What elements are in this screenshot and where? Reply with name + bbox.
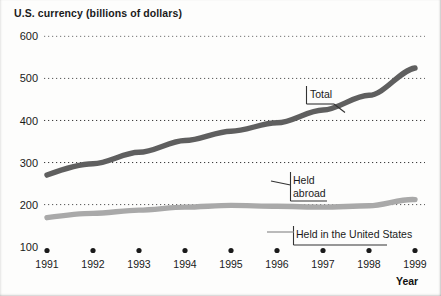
x-tick-1993: 1993 bbox=[119, 258, 159, 270]
x-tick-1994: 1994 bbox=[165, 258, 205, 270]
annotation-us-line-1: Held in the United States bbox=[296, 228, 412, 241]
gridline-400 bbox=[42, 120, 425, 121]
x-tick-1991: 1991 bbox=[27, 258, 67, 270]
series-line-held-in-us bbox=[47, 199, 415, 217]
series-line-total bbox=[47, 68, 415, 175]
x-dot-1992 bbox=[90, 248, 95, 253]
x-tick-1995: 1995 bbox=[211, 258, 251, 270]
x-dot-1994 bbox=[182, 248, 187, 253]
x-axis-dot-markers bbox=[44, 248, 417, 253]
annotation-label-total: Total bbox=[310, 88, 332, 101]
x-dot-1999 bbox=[412, 248, 417, 253]
annotation-label-held-in-us: Held in the United States bbox=[296, 228, 412, 241]
x-dot-1998 bbox=[366, 248, 371, 253]
chart-plot-area bbox=[0, 0, 441, 296]
x-dot-1995 bbox=[228, 248, 233, 253]
x-dot-1997 bbox=[320, 248, 325, 253]
annotation-abroad-line-1: Held bbox=[293, 174, 326, 187]
x-dot-1996 bbox=[274, 248, 279, 253]
x-tick-1998: 1998 bbox=[349, 258, 389, 270]
annotation-abroad-line-2: abroad bbox=[293, 187, 326, 200]
chart-figure: U.S. currency (billions of dollars) 600 … bbox=[0, 0, 441, 296]
x-tick-1997: 1997 bbox=[303, 258, 343, 270]
annotation-label-held-abroad: Held abroad bbox=[293, 174, 326, 199]
gridline-600 bbox=[42, 35, 425, 36]
gridline-500 bbox=[42, 78, 425, 79]
x-dot-1991 bbox=[44, 248, 49, 253]
x-axis-title: Year bbox=[396, 275, 418, 287]
x-tick-1992: 1992 bbox=[73, 258, 113, 270]
annotation-total-line-1: Total bbox=[310, 88, 332, 101]
x-tick-1999: 1999 bbox=[395, 258, 435, 270]
gridlines bbox=[42, 35, 425, 205]
x-dot-1993 bbox=[136, 248, 141, 253]
x-tick-1996: 1996 bbox=[257, 258, 297, 270]
